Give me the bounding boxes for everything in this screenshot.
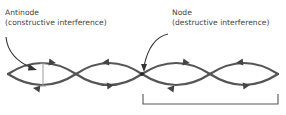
standing-wave-diagram (0, 0, 286, 115)
arrow-left-icon (102, 59, 110, 67)
wave-loop-3-lower (142, 74, 210, 85)
arrow-left-icon (236, 59, 244, 67)
node-pointer-arrow (144, 34, 168, 66)
wave-loop-1-lower (8, 74, 76, 85)
wave-loop-3-upper (142, 63, 210, 74)
node-point (140, 72, 144, 76)
amplitude-marker (40, 63, 46, 86)
antinode-pointer-arrow (6, 37, 32, 68)
wavelength-bracket (143, 94, 278, 104)
wave-loop-1-upper (8, 63, 76, 74)
wave-loop-4-upper (210, 63, 278, 74)
wave-loop-2-lower (76, 74, 142, 85)
